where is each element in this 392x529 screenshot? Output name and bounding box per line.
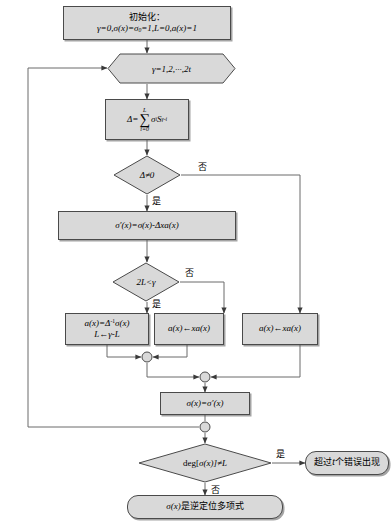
edge-delta-no	[181, 175, 300, 313]
edge-rightshift-to-center	[211, 345, 300, 377]
junction-merge-center	[200, 372, 210, 382]
node-delta-computation: Δ=L∑i=0σiSγ-i	[105, 99, 189, 140]
node-twol-decision: 2L<γ	[112, 262, 180, 302]
diamond-shape	[113, 155, 181, 195]
node-shift-a-right: a(x)←xa(x)	[242, 313, 318, 345]
node-success: σ(x)是逆定位多项式	[127, 495, 283, 519]
edge-update-to-merge	[107, 345, 141, 357]
node-update-a-and-l: a(x)=Δ-1σ(x) L←γ-L	[65, 313, 149, 345]
shift-a-middle-label: a(x)←xa(x)	[155, 323, 223, 334]
update-l-line: L←γ-L	[69, 329, 145, 340]
junction-merge-left	[142, 352, 152, 362]
edge-twol-no	[180, 282, 224, 313]
too-many-errors-label: 超过t个错误出现	[306, 457, 388, 468]
assign-sigma-label: σ(x)=σ′(x)	[161, 398, 249, 409]
flowchart-canvas: 初始化： γ=0,σ(x)=σ0=1,L=0,a(x)=1 γ=1,2,···,…	[0, 0, 392, 529]
diamond-shape	[138, 443, 272, 483]
delta-lhs: Δ=	[127, 114, 138, 125]
sigma-prime-label: σ′(x)=σ(x)-Δxa(x)	[59, 220, 235, 231]
update-a-line: a(x)=Δ-1σ(x)	[69, 318, 145, 329]
node-delta-decision: Δ≠0	[113, 155, 181, 195]
label-delta-no: 否	[198, 160, 207, 173]
summation-symbol: L∑i=0	[139, 107, 150, 132]
shift-a-right-label: a(x)←xa(x)	[243, 323, 317, 334]
node-deg-decision: deg[σ(x)]≠L	[138, 443, 272, 483]
node-too-many-errors: 超过t个错误出现	[305, 451, 389, 475]
node-shift-a-middle: a(x)←xa(x)	[154, 313, 224, 345]
label-twol-no: 否	[185, 266, 194, 279]
node-assign-sigma: σ(x)=σ′(x)	[160, 392, 250, 415]
edge-midshift-to-merge	[153, 345, 187, 357]
node-sigma-prime: σ′(x)=σ(x)-Δxa(x)	[58, 211, 236, 240]
hexagon-shape	[107, 53, 236, 84]
init-formula: γ=0,σ(x)=σ0=1,L=0,a(x)=1	[67, 23, 227, 34]
label-deg-yes: 是	[276, 447, 285, 460]
diamond-shape	[112, 262, 180, 302]
label-delta-yes: 是	[152, 194, 161, 207]
init-title: 初始化：	[67, 12, 227, 23]
edge-merge-to-center	[147, 363, 199, 377]
node-loop-range: γ=1,2,···,2t	[107, 53, 236, 84]
junction-loop-back	[200, 422, 210, 432]
success-label: σ(x)是逆定位多项式	[128, 501, 282, 512]
node-initialization: 初始化： γ=0,σ(x)=σ0=1,L=0,a(x)=1	[63, 6, 231, 40]
